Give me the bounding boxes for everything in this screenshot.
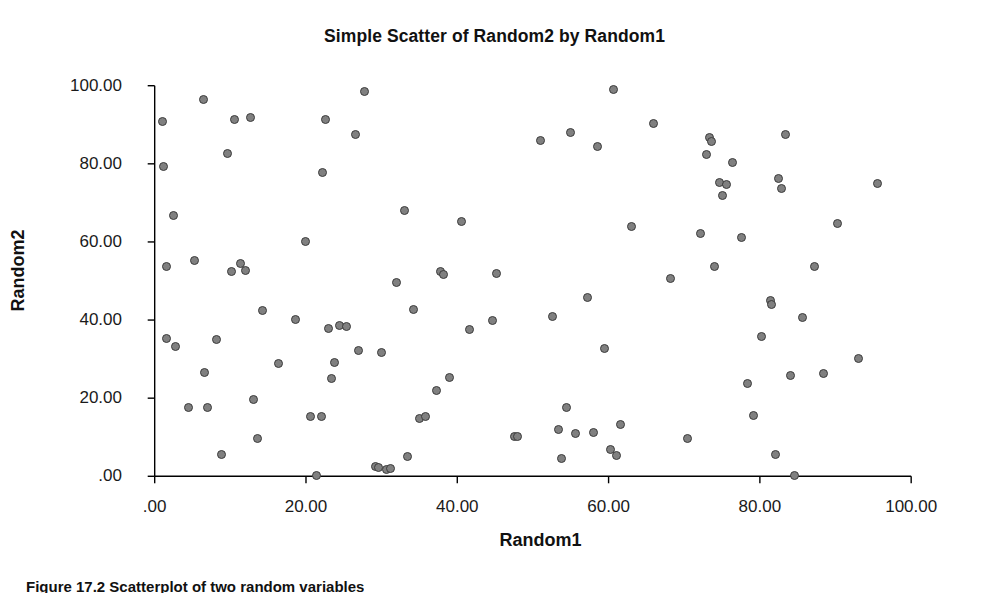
scatter-point	[710, 262, 719, 271]
scatter-point	[199, 95, 208, 104]
figure-container: Simple Scatter of Random2 by Random1 .00…	[0, 0, 989, 593]
scatter-point	[488, 316, 497, 325]
scatter-point	[321, 115, 330, 124]
scatter-point	[683, 434, 692, 443]
x-tick-label: .00	[143, 497, 167, 517]
scatter-point	[291, 315, 300, 324]
scatter-point	[330, 358, 339, 367]
scatter-point	[432, 386, 441, 395]
figure-caption: Figure 17.2 Scatterplot of two random va…	[26, 578, 364, 593]
scatter-point	[312, 471, 321, 480]
scatter-point	[465, 325, 474, 334]
scatter-point	[162, 262, 171, 271]
y-axis-title: Random2	[8, 191, 29, 351]
y-tick-label: 20.00	[79, 388, 122, 408]
scatter-point	[777, 184, 786, 193]
scatter-point	[728, 158, 737, 167]
scatter-point	[786, 371, 795, 380]
scatter-point	[158, 117, 167, 126]
scatter-point	[571, 429, 580, 438]
scatter-point	[548, 312, 557, 321]
scatter-point	[771, 450, 780, 459]
scatter-point	[317, 412, 326, 421]
scatter-point	[854, 354, 863, 363]
chart-title: Simple Scatter of Random2 by Random1	[0, 26, 989, 47]
x-axis-title: Random1	[132, 530, 949, 551]
y-tick-label: 60.00	[79, 232, 122, 252]
y-tick-label: 40.00	[79, 310, 122, 330]
scatter-point	[833, 219, 842, 228]
scatter-point	[774, 174, 783, 183]
plot-area	[132, 74, 949, 488]
x-axis-tick-labels: .0020.0040.0060.0080.00100.00	[0, 497, 989, 523]
scatter-point	[612, 451, 621, 460]
scatter-point	[589, 428, 598, 437]
scatter-point	[536, 136, 545, 145]
scatter-point	[557, 454, 566, 463]
x-tick-label: 100.00	[885, 497, 937, 517]
scatter-point	[554, 425, 563, 434]
y-tick-label: 80.00	[79, 154, 122, 174]
scatter-point	[600, 344, 609, 353]
y-tick-label: 100.00	[70, 76, 122, 96]
scatter-point	[159, 162, 168, 171]
scatter-point	[737, 233, 746, 242]
scatter-point	[190, 256, 199, 265]
scatter-point	[400, 206, 409, 215]
scatter-point	[583, 293, 592, 302]
scatter-point	[810, 262, 819, 271]
scatter-point	[200, 368, 209, 377]
scatter-point	[223, 149, 232, 158]
scatter-point	[562, 403, 571, 412]
y-tick-label: .00	[98, 466, 122, 486]
scatter-point	[318, 168, 327, 177]
scatter-point	[492, 269, 501, 278]
x-tick-label: 20.00	[285, 497, 328, 517]
scatter-point	[409, 305, 418, 314]
scatter-point	[757, 332, 766, 341]
scatter-point	[609, 85, 618, 94]
scatter-point	[249, 395, 258, 404]
scatter-point	[217, 450, 226, 459]
scatter-point	[246, 113, 255, 122]
scatter-point	[798, 313, 807, 322]
scatter-point	[258, 306, 267, 315]
scatter-point	[445, 373, 454, 382]
scatter-point	[718, 191, 727, 200]
scatter-point	[169, 211, 178, 220]
scatter-point	[627, 222, 636, 231]
x-tick-label: 60.00	[587, 497, 630, 517]
x-tick-label: 80.00	[739, 497, 782, 517]
x-tick-label: 40.00	[436, 497, 479, 517]
